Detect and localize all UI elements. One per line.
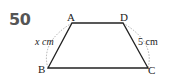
trapezoid-diagram: A D B C x cm 5 cm bbox=[0, 0, 172, 74]
vertex-label-d: D bbox=[120, 11, 128, 23]
side-label-ab: x cm bbox=[34, 36, 54, 47]
vertex-label-b: B bbox=[38, 63, 45, 74]
vertex-label-c: C bbox=[148, 64, 155, 74]
vertex-label-a: A bbox=[67, 11, 75, 23]
side-label-dc: 5 cm bbox=[138, 36, 158, 47]
trapezoid-outline bbox=[48, 23, 148, 68]
